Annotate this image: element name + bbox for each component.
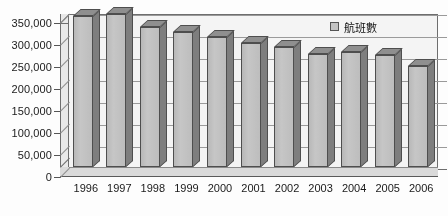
chart-container: 050,000100,000150,000200,000250,000300,0… [0, 0, 448, 216]
x-axis-label: 2000 [208, 182, 232, 194]
x-axis-label: 2004 [342, 182, 366, 194]
y-axis-label: 250,000 [12, 61, 52, 73]
bar-front-face [207, 37, 227, 167]
bar-side-face [193, 26, 200, 167]
bar-column [308, 54, 328, 167]
x-axis-labels: 1996199719981999200020012002200320042005… [60, 182, 438, 202]
x-axis-label: 1998 [141, 182, 165, 194]
x-axis-label: 1999 [174, 182, 198, 194]
bar-front-face [241, 43, 261, 167]
bar-side-face [361, 46, 368, 167]
bar-side-face [126, 8, 133, 167]
legend-label: 航班數 [344, 19, 377, 35]
x-axis-label: 1996 [74, 182, 98, 194]
y-axis-label: 350,000 [12, 17, 52, 29]
x-axis-label: 2003 [308, 182, 332, 194]
bar-column [106, 14, 126, 167]
bar-side-face [395, 49, 402, 167]
x-axis-label: 2002 [275, 182, 299, 194]
x-axis-label: 2001 [241, 182, 265, 194]
y-axis-label: 50,000 [18, 149, 52, 161]
x-axis-label: 2006 [409, 182, 433, 194]
y-axis-label: 200,000 [12, 83, 52, 95]
bar-column [73, 16, 93, 167]
x-axis-label: 1997 [107, 182, 131, 194]
bar-side-face [261, 37, 268, 167]
y-axis-label: 100,000 [12, 127, 52, 139]
bar-column [207, 37, 227, 167]
bar-side-face [93, 10, 100, 167]
x-axis-label: 2005 [375, 182, 399, 194]
bar-front-face [173, 32, 193, 167]
bar-front-face [274, 47, 294, 167]
legend-swatch-icon [330, 22, 339, 31]
bar-column [274, 47, 294, 167]
bar-column [408, 66, 428, 167]
y-axis-label: 150,000 [12, 105, 52, 117]
bar-front-face [140, 27, 160, 167]
y-axis-label: 300,000 [12, 39, 52, 51]
bar-front-face [375, 55, 395, 167]
y-axis-label: 0 [46, 171, 52, 183]
bar-column [341, 52, 361, 167]
bar-front-face [408, 66, 428, 167]
bar-side-face [294, 41, 301, 167]
bar-column [375, 55, 395, 167]
y-axis-labels: 050,000100,000150,000200,000250,000300,0… [0, 0, 56, 216]
bar-front-face [106, 14, 126, 167]
bar-front-face [73, 16, 93, 167]
bar-side-face [227, 31, 234, 167]
bar-front-face [308, 54, 328, 167]
bar-column [241, 43, 261, 167]
bar-column [140, 27, 160, 167]
bar-column [173, 32, 193, 167]
bar-side-face [428, 60, 435, 167]
bar-side-face [160, 21, 167, 167]
bar-front-face [341, 52, 361, 167]
bar-side-face [328, 48, 335, 167]
bar-series [69, 14, 438, 177]
chart-legend: 航班數 [326, 18, 383, 35]
